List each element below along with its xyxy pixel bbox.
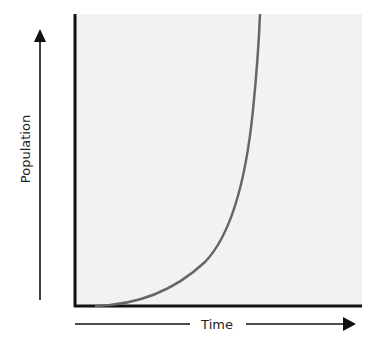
plot-area <box>75 14 362 306</box>
x-arrow-head-icon <box>343 317 356 331</box>
y-axis-label: Population <box>18 115 33 183</box>
y-arrow-head-icon <box>34 29 46 42</box>
exponential-growth-diagram <box>0 0 380 347</box>
x-axis-label: Time <box>201 317 233 332</box>
